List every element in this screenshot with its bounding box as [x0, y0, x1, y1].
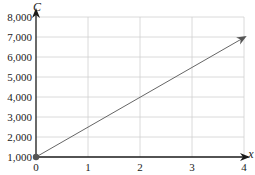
x-tick-label: 1: [85, 161, 91, 173]
x-tick-label: 0: [33, 161, 39, 173]
y-tick-label: 5,000: [7, 71, 32, 83]
x-tick-label: 4: [241, 161, 247, 173]
x-axis-label: x: [247, 147, 254, 161]
y-tick-label: 2,000: [7, 131, 32, 143]
y-tick-label: 6,000: [7, 51, 32, 63]
line-chart: 1,0002,0003,0004,0005,0006,0007,0008,000…: [0, 0, 255, 175]
x-tick-label: 2: [137, 161, 143, 173]
y-tick-label: 4,000: [7, 91, 32, 103]
y-tick-label: 3,000: [7, 111, 32, 123]
x-tick-labels: 01234: [33, 161, 247, 173]
y-tick-label: 8,000: [7, 11, 32, 23]
start-point: [33, 154, 39, 160]
y-tick-label: 7,000: [7, 31, 32, 43]
x-tick-label: 3: [189, 161, 195, 173]
y-tick-label: 1,000: [7, 151, 32, 163]
y-tick-labels: 1,0002,0003,0004,0005,0006,0007,0008,000: [7, 11, 32, 163]
y-axis-label: C: [33, 0, 42, 14]
gridlines: [36, 17, 244, 157]
